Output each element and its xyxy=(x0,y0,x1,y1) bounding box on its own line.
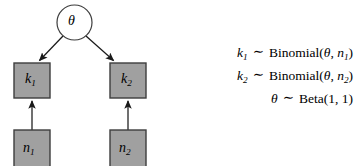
model-equations: k1 ∼ Binomial(θ, n1) k2 ∼ Binomial(θ, n2… xyxy=(186,44,359,113)
node-k2 xyxy=(110,63,146,98)
equation-lhs: θ xyxy=(271,91,278,107)
edge-theta-to-k1 xyxy=(40,36,64,61)
node-n1 xyxy=(14,130,50,166)
node-k1 xyxy=(14,63,50,98)
equation-relation: ∼ xyxy=(283,89,294,106)
equation-row: θ ∼ Beta(1, 1) xyxy=(186,90,359,113)
figure-root: θ k1 k2 n1 n2 k1 ∼ Binomial(θ, n1) k2 ∼ … xyxy=(0,0,359,166)
equation-row: k1 ∼ Binomial(θ, n1) xyxy=(186,44,359,67)
equation-rhs: Beta(1, 1) xyxy=(299,91,353,107)
edge-theta-to-k2 xyxy=(86,36,114,61)
equation-rhs: Binomial(θ, n2) xyxy=(269,68,353,85)
node-theta xyxy=(57,5,92,40)
equation-lhs: k1 xyxy=(237,45,248,62)
equation-rhs: Binomial(θ, n1) xyxy=(269,45,353,62)
equation-lhs: k2 xyxy=(237,68,248,85)
equation-relation: ∼ xyxy=(253,43,264,60)
graphical-model-diagram: θ k1 k2 n1 n2 xyxy=(0,0,180,166)
graph-canvas xyxy=(0,0,180,166)
equation-row: k2 ∼ Binomial(θ, n2) xyxy=(186,67,359,90)
equation-relation: ∼ xyxy=(253,66,264,83)
node-n2 xyxy=(110,130,146,166)
